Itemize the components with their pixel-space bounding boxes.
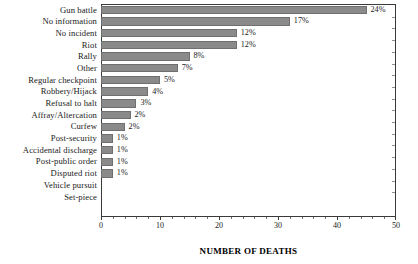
bar-row: No incident12% — [0, 27, 418, 39]
bar-and-value: 5% — [101, 76, 175, 84]
bar-value-label: 5% — [164, 76, 175, 84]
bar-value-label: 2% — [129, 123, 140, 131]
category-label: Riot — [82, 41, 97, 50]
x-tick — [395, 217, 396, 220]
bar-value-label: 8% — [194, 52, 205, 60]
bar-row: Curfew2% — [0, 121, 418, 133]
bar — [101, 6, 367, 14]
bar-and-value: 17% — [101, 17, 309, 25]
bar-and-value: 3% — [101, 99, 151, 107]
x-minor-tick — [184, 217, 185, 219]
x-tick-label: 10 — [156, 221, 164, 230]
bar — [101, 111, 131, 119]
x-minor-tick — [313, 217, 314, 219]
bar — [101, 99, 136, 107]
x-minor-tick — [195, 217, 196, 219]
x-minor-tick — [125, 217, 126, 219]
bar-row: Post-public order1% — [0, 156, 418, 168]
bar-chart: Gun battle24%No information17%No inciden… — [0, 0, 418, 264]
bar-value-label: 1% — [117, 169, 128, 177]
bar-row: Regular checkpoint5% — [0, 74, 418, 86]
bar-value-label: 1% — [117, 158, 128, 166]
x-minor-tick — [243, 217, 244, 219]
category-label: Rally — [78, 52, 97, 61]
bar-and-value: 1% — [101, 146, 128, 154]
bar-rows: Gun battle24%No information17%No inciden… — [0, 4, 418, 217]
bar — [101, 169, 113, 177]
bar — [101, 64, 178, 72]
x-minor-tick — [254, 217, 255, 219]
category-label: Regular checkpoint — [28, 76, 97, 85]
x-tick — [278, 217, 279, 220]
bar — [101, 52, 190, 60]
bar-row: Other7% — [0, 62, 418, 74]
x-tick-label: 30 — [274, 221, 282, 230]
category-label: No information — [42, 17, 97, 26]
x-minor-tick — [349, 217, 350, 219]
bar-and-value: 2% — [101, 123, 140, 131]
bar-and-value: 1% — [101, 134, 128, 142]
bar-row: Vehicle pursuit — [0, 179, 418, 191]
bar-value-label: 4% — [152, 88, 163, 96]
x-tick-label: 20 — [215, 221, 223, 230]
bar-row: Rally8% — [0, 51, 418, 63]
x-minor-tick — [172, 217, 173, 219]
bar-and-value: 4% — [101, 87, 163, 95]
bar-and-value: 1% — [101, 169, 128, 177]
bar — [101, 123, 125, 131]
x-minor-tick — [384, 217, 385, 219]
x-minor-tick — [136, 217, 137, 219]
bar-row: Disputed riot1% — [0, 168, 418, 180]
bar-value-label: 1% — [117, 146, 128, 154]
bar-row: Post-security1% — [0, 133, 418, 145]
bar-value-label: 2% — [135, 111, 146, 119]
category-label: Robbery/Hijack — [41, 87, 97, 96]
category-label: Gun battle — [60, 6, 97, 15]
x-tick — [101, 217, 102, 220]
bar-row: Accidental discharge1% — [0, 144, 418, 156]
bar-value-label: 12% — [241, 41, 256, 49]
bar-and-value: 8% — [101, 52, 204, 60]
bar-value-label: 1% — [117, 134, 128, 142]
x-tick — [219, 217, 220, 220]
category-label: Accidental discharge — [23, 146, 97, 155]
x-minor-tick — [113, 217, 114, 219]
bar-and-value: 12% — [101, 29, 256, 37]
bar-row: Robbery/Hijack4% — [0, 86, 418, 98]
x-minor-tick — [231, 217, 232, 219]
category-label: Refusal to halt — [45, 99, 97, 108]
bar-value-label: 7% — [182, 64, 193, 72]
x-axis-title: NUMBER OF DEATHS — [101, 246, 396, 256]
x-tick-label: 40 — [333, 221, 341, 230]
bar-row: No information17% — [0, 16, 418, 28]
bar-value-label: 3% — [140, 99, 151, 107]
bar-row: Riot12% — [0, 39, 418, 51]
bar-and-value: 24% — [101, 6, 386, 14]
x-tick-label: 50 — [392, 221, 400, 230]
category-label: Post-public order — [36, 157, 97, 166]
category-label: Post-security — [51, 134, 97, 143]
bar-and-value: 7% — [101, 64, 193, 72]
bar-and-value: 12% — [101, 41, 256, 49]
category-label: Disputed riot — [51, 169, 97, 178]
bar-row: Set-piece — [0, 191, 418, 203]
bar — [101, 41, 237, 49]
category-label: Vehicle pursuit — [44, 181, 97, 190]
x-tick-label: 0 — [99, 221, 103, 230]
bar — [101, 29, 237, 37]
bar — [101, 87, 148, 95]
x-minor-tick — [148, 217, 149, 219]
bar-row: Affray/Altercation2% — [0, 109, 418, 121]
bar-value-label: 24% — [371, 6, 386, 14]
x-minor-tick — [302, 217, 303, 219]
x-minor-tick — [372, 217, 373, 219]
x-axis: 01020304050 — [101, 217, 396, 247]
bar — [101, 158, 113, 166]
category-label: Other — [77, 64, 97, 73]
x-minor-tick — [361, 217, 362, 219]
bar-and-value: 2% — [101, 111, 145, 119]
bar — [101, 146, 113, 154]
x-minor-tick — [325, 217, 326, 219]
bar — [101, 17, 290, 25]
bar-and-value: 1% — [101, 158, 128, 166]
